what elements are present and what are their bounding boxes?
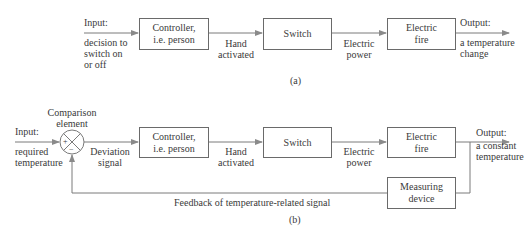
input-label: Input:	[84, 17, 108, 28]
caption-a: (a)	[290, 75, 301, 86]
measuring-device-box: Measuringdevice	[387, 177, 456, 209]
electric-fire-box: Electricfire	[387, 18, 456, 50]
plus-sign: +	[63, 138, 68, 146]
input-desc: decision to switch on or off	[84, 37, 128, 70]
electric-fire-box: Electricfire	[387, 127, 456, 158]
electric-power-label: Electric power	[335, 146, 383, 168]
controller-box: Controller,i.e. person	[139, 127, 209, 158]
switch-box: Switch	[263, 127, 332, 158]
output-label: Output:	[460, 17, 491, 28]
feedback-label: Feedback of temperature-related signal	[174, 197, 330, 208]
switch-box: Switch	[263, 18, 332, 50]
comparison-element-label: Comparison element	[47, 107, 97, 129]
input-desc: required temperature	[15, 146, 63, 168]
controller-box: Controller,i.e. person	[139, 18, 209, 50]
electric-power-label: Electric power	[335, 38, 383, 60]
hand-activated-label: Hand activated	[212, 38, 260, 60]
output-label: Output:	[476, 127, 507, 138]
output-desc: a temperature change	[460, 37, 515, 59]
caption-b: (b)	[289, 214, 301, 225]
minus-sign: −	[69, 146, 74, 154]
hand-activated-label: Hand activated	[212, 146, 260, 168]
output-desc: a constant temperature	[476, 140, 524, 162]
deviation-signal-label: Deviation signal	[86, 146, 134, 168]
input-label: Input:	[15, 126, 39, 137]
